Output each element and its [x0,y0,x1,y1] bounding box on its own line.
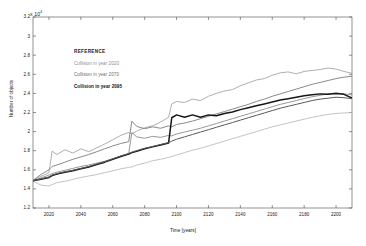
y-axis-tick-label-1.8: 1.8 [14,148,30,153]
legend-item-3: Collision in year 2095 [74,84,122,89]
y-axis-tick-label-1.2: 1.2 [14,205,30,210]
legend-item-2: Collision in year 2070 [74,72,122,77]
y-axis-tick-label-2.2: 2.2 [14,110,30,115]
y-axis-tick-label-2.8: 2.8 [14,53,30,58]
y-axis-tick-label-1.4: 1.4 [14,186,30,191]
y-axis-tick-label-2: 2 [14,129,30,134]
x-axis-tick-label-2020: 2020 [36,212,62,217]
x-axis-tick-label-2100: 2100 [164,212,190,217]
x-axis-tick-label-2120: 2120 [195,212,221,217]
x-axis-tick-label-2080: 2080 [132,212,158,217]
legend-heading: REFERENCE [74,49,122,54]
chart-legend: REFERENCECollision in year 2020Collision… [74,49,122,95]
x-axis-tick-label-2140: 2140 [227,212,253,217]
y-axis-tick-label-1.6: 1.6 [14,167,30,172]
y-axis-tick-label-3: 3 [14,34,30,39]
x-axis-tick-label-2040: 2040 [68,212,94,217]
x-axis-tick-label-2180: 2180 [291,212,317,217]
plot-area [0,0,366,246]
plot-border [33,17,352,208]
y-axis-tick-label-3.2: 3.2 [14,14,30,19]
y-axis-tick-label-2.4: 2.4 [14,91,30,96]
x-axis-tick-label-2060: 2060 [100,212,126,217]
chart-figure: x 104 Number of objects Time [years] REF… [0,0,366,246]
legend-item-1: Collision in year 2020 [74,61,122,66]
y-axis-tick-label-2.6: 2.6 [14,72,30,77]
x-axis-tick-label-2160: 2160 [259,212,285,217]
x-axis-tick-label-2200: 2200 [323,212,349,217]
